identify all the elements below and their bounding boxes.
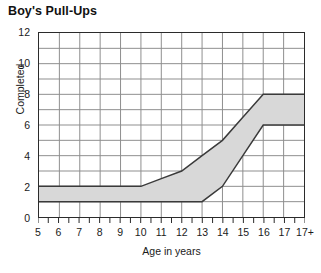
y-axis-tick-labels: 024681012 bbox=[0, 32, 34, 218]
plot-area bbox=[38, 32, 305, 218]
x-tick-label: 7 bbox=[76, 226, 82, 238]
data-band bbox=[39, 33, 304, 217]
x-tick-label: 17 bbox=[279, 226, 291, 238]
x-tick-label: 16 bbox=[258, 226, 270, 238]
x-axis-title: Age in years bbox=[38, 245, 305, 257]
x-tick-label: 6 bbox=[56, 226, 62, 238]
y-tick-label: 8 bbox=[24, 89, 30, 99]
y-tick-label: 12 bbox=[18, 27, 30, 37]
page-title: Boy's Pull-Ups bbox=[8, 4, 97, 18]
x-tick-label: 12 bbox=[176, 226, 188, 238]
x-tick-label: 10 bbox=[135, 226, 147, 238]
y-tick-label: 0 bbox=[24, 213, 30, 223]
x-tick-label: 13 bbox=[196, 226, 208, 238]
x-tick-label: 17+ bbox=[296, 226, 314, 238]
x-axis-ticks bbox=[38, 218, 305, 225]
x-axis-tick-labels: 56789101112131415161717+ bbox=[38, 226, 305, 240]
x-tick-label: 14 bbox=[217, 226, 229, 238]
x-tick-label: 15 bbox=[238, 226, 250, 238]
band-fill bbox=[39, 94, 304, 201]
y-tick-label: 6 bbox=[24, 120, 30, 130]
y-tick-label: 4 bbox=[24, 151, 30, 161]
x-tick-label: 9 bbox=[117, 226, 123, 238]
x-tick-label: 5 bbox=[35, 226, 41, 238]
x-tick-label: 8 bbox=[97, 226, 103, 238]
y-tick-label: 2 bbox=[24, 182, 30, 192]
x-tick-label: 11 bbox=[156, 226, 167, 238]
y-tick-label: 10 bbox=[18, 58, 30, 68]
